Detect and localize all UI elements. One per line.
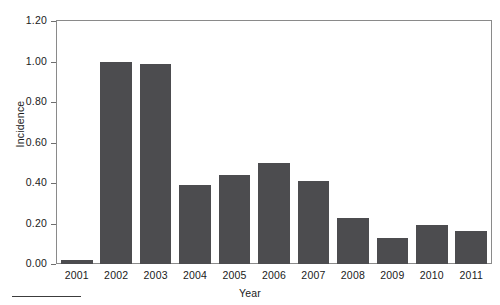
x-tick-label-2001: 2001 <box>57 269 96 281</box>
y-tick-label-1.00: 1.00 <box>26 55 47 67</box>
bar-2010 <box>416 225 448 264</box>
x-tick-label-2005: 2005 <box>215 269 254 281</box>
y-axis-title: Incidence <box>14 84 26 164</box>
figure-bar-chart: 0.000.200.400.600.801.001.20 Incidence Y… <box>0 0 500 305</box>
bar-2007 <box>298 181 330 264</box>
x-axis-title: Year <box>0 287 500 299</box>
x-tick-label-2009: 2009 <box>373 269 412 281</box>
y-tick-label-1.20: 1.20 <box>26 14 47 26</box>
bar-2008 <box>337 218 369 264</box>
bar-2005 <box>219 175 251 264</box>
y-tick-label-0.40: 0.40 <box>26 176 47 188</box>
plot-area <box>57 21 491 264</box>
x-tick-label-2003: 2003 <box>136 269 175 281</box>
bar-2001 <box>61 260 93 264</box>
y-tick-label-0.20: 0.20 <box>26 217 47 229</box>
x-tick-label-2010: 2010 <box>412 269 451 281</box>
y-tick-label-0.80: 0.80 <box>26 95 47 107</box>
bar-2011 <box>455 231 487 264</box>
bar-2006 <box>258 163 290 264</box>
x-tick-label-2008: 2008 <box>333 269 372 281</box>
figure-bottom-rule <box>12 296 81 297</box>
x-tick-label-2007: 2007 <box>294 269 333 281</box>
x-tick-label-2002: 2002 <box>96 269 135 281</box>
bar-2009 <box>377 238 409 264</box>
bar-2003 <box>140 64 172 264</box>
y-tick-label-0.60: 0.60 <box>26 136 47 148</box>
x-tick-label-2011: 2011 <box>452 269 491 281</box>
x-tick-label-2006: 2006 <box>254 269 293 281</box>
x-tick-label-2004: 2004 <box>175 269 214 281</box>
bar-2002 <box>100 62 132 265</box>
y-tick-mark-0.00 <box>51 264 56 265</box>
bar-2004 <box>179 185 211 264</box>
y-tick-label-0.00: 0.00 <box>26 257 47 269</box>
